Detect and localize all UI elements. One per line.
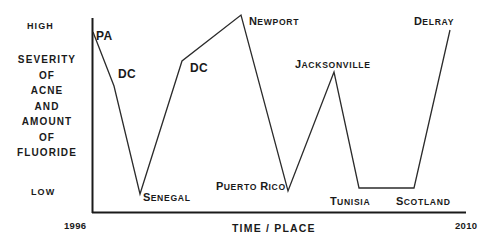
y-axis-title-line-1: SEVERITY [8, 52, 86, 68]
point-label-delray-rest: ELRAY [422, 17, 454, 27]
x-axis-start-year: 1996 [64, 221, 86, 231]
y-axis-title-line-4: AND [8, 99, 86, 115]
point-label-tunisia-initial: T [330, 195, 337, 207]
y-axis-title: SEVERITY OF ACNE AND AMOUNT OF FLUORIDE [8, 52, 86, 161]
point-label-dc-1: DC [118, 68, 136, 80]
point-label-newport: NEWPORT [249, 12, 299, 28]
acne-fluoride-line-chart: HIGH LOW SEVERITY OF ACNE AND AMOUNT OF … [0, 0, 499, 246]
y-axis-title-line-5: AMOUNT [8, 114, 86, 130]
point-label-senegal: SENEGAL [143, 188, 191, 204]
point-label-pa: PA [96, 30, 113, 42]
point-label-puerto-rico-initial: P [216, 180, 224, 192]
point-label-newport-rest: EWPORT [257, 17, 299, 27]
point-label-jacksonville-rest: ACKSONVILLE [301, 60, 370, 70]
point-label-tunisia: TUNISIA [330, 192, 370, 208]
data-line [93, 15, 450, 194]
point-label-delray: DELRAY [414, 12, 454, 28]
y-axis-title-line-2: OF [8, 68, 86, 84]
point-label-senegal-initial: S [143, 191, 151, 203]
point-label-puerto-rico: PUERTO RICO [216, 177, 286, 193]
point-label-puerto-rico-rest-2: ICO [268, 182, 285, 192]
y-axis-low-label: LOW [31, 188, 55, 197]
y-axis-title-line-6: OF [8, 130, 86, 146]
y-axis-title-line-3: ACNE [8, 83, 86, 99]
y-axis-title-line-7: FLUORIDE [8, 145, 86, 161]
point-label-jacksonville: JACKSONVILLE [295, 55, 371, 71]
x-axis-end-year: 2010 [455, 221, 477, 231]
y-axis-high-label: HIGH [27, 22, 54, 31]
point-label-puerto-rico-rest: UERTO [224, 182, 261, 192]
point-label-scotland: SCOTLAND [396, 192, 451, 208]
x-axis-title: TIME / PLACE [232, 222, 316, 234]
point-label-tunisia-rest: UNISIA [337, 197, 370, 207]
point-label-dc-2: DC [190, 62, 208, 74]
point-label-scotland-rest: COTLAND [404, 197, 451, 207]
point-label-newport-initial: N [249, 15, 257, 27]
point-label-scotland-initial: S [396, 195, 404, 207]
point-label-delray-initial: D [414, 15, 422, 27]
point-label-senegal-rest: ENEGAL [151, 193, 191, 203]
